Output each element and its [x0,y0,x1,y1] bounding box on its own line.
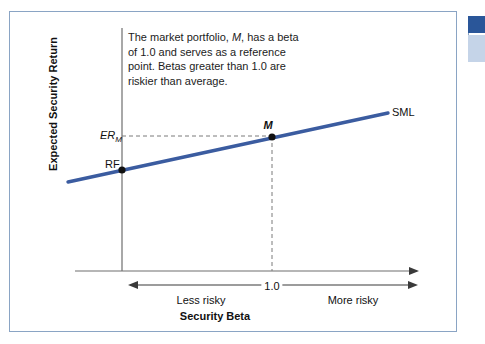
risk-scale-right-arrowhead [408,281,418,289]
risk-scale-right-label: More risky [328,294,379,306]
y-axis-title: Expected Security Return [47,24,59,184]
y-tick-label-erm: ERM [100,129,122,144]
annotation-line1-part-b: , has a [241,31,274,43]
market-point-label: M [263,119,272,131]
y-tick-label-rf: RF [105,158,120,170]
annotation-callout: The market portfolio, M, has a beta of 1… [128,30,308,88]
sml-line-label: SML [392,106,415,118]
figure-root: Expected Security Return The market port… [0,0,485,344]
x-tick-label-one: 1.0 [261,280,282,292]
sml-line [68,113,388,182]
risk-scale-left-label: Less risky [177,294,226,306]
annotation-line1-italic-m: M [232,31,241,43]
annotation-line1-part-a: The market portfolio, [128,31,232,43]
x-axis-title: Security Beta [180,310,250,322]
market-point-marker [268,133,275,140]
erm-subscript: M [115,135,122,144]
x-axis-right-arrowhead [409,267,419,275]
risk-scale-left-arrowhead [128,281,138,289]
erm-base: ER [100,129,115,141]
